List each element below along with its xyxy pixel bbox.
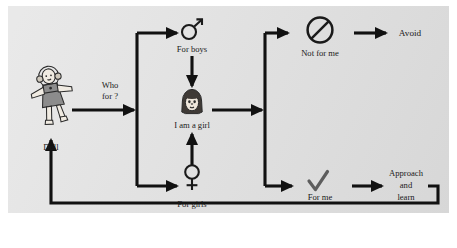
node-label-i-am-a-girl: I am a girl: [174, 120, 210, 130]
prohibition-circle-slash-icon: [308, 18, 333, 43]
girl-face-icon: [182, 89, 202, 113]
node-label-for-girls: For girls: [177, 199, 207, 209]
node-label-approach-line1: Approach: [389, 168, 424, 178]
flowchart-svg: Doll Who for ? For boys For girls I am a…: [0, 0, 457, 248]
edge-feedback-loop-to-doll: [51, 140, 438, 203]
node-label-avoid: Avoid: [399, 28, 422, 38]
checkmark-icon: [309, 172, 328, 190]
edge-label-who-line2: for ?: [102, 91, 118, 101]
node-label-doll: Doll: [43, 142, 59, 152]
node-label-for-boys: For boys: [177, 44, 208, 54]
figure-canvas: Doll Who for ? For boys For girls I am a…: [0, 0, 457, 248]
female-gender-symbol-icon: [185, 165, 199, 190]
node-label-approach-line2: and: [400, 180, 413, 190]
node-label-approach-line3: learn: [397, 192, 415, 202]
edge-label-who-line1: Who: [102, 80, 119, 90]
node-label-not-for-me: Not for me: [301, 48, 339, 58]
male-gender-symbol-icon: [182, 19, 202, 39]
doll-figure-icon: [27, 63, 77, 127]
node-label-for-me: For me: [308, 192, 333, 202]
